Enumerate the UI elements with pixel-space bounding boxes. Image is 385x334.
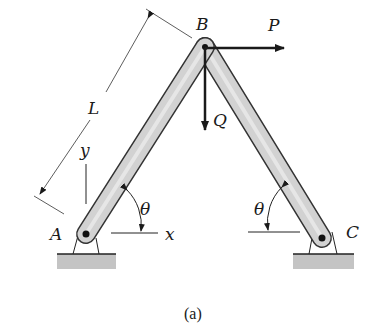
label-theta-a: θ: [140, 199, 150, 219]
pin-a: [83, 231, 90, 238]
label-x: x: [165, 224, 175, 244]
label-b: B: [195, 14, 209, 34]
figure-caption: (a): [184, 305, 202, 323]
label-q: Q: [213, 110, 227, 130]
label-y: y: [79, 140, 90, 160]
label-theta-c: θ: [254, 199, 264, 219]
label-p: P: [267, 15, 280, 35]
two-bar-frame-diagram: B P Q L y A x θ θ C (a): [0, 0, 385, 334]
pin-c: [319, 235, 326, 242]
theta-arc-c: [267, 187, 282, 230]
label-l: L: [87, 98, 99, 118]
label-a: A: [48, 224, 62, 244]
label-c: C: [346, 222, 359, 242]
